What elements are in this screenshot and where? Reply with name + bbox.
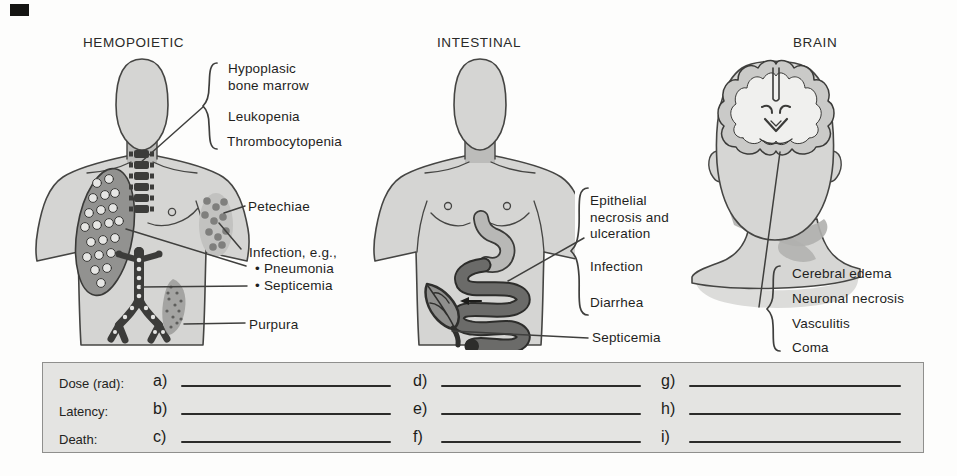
label-septicemia-bullet: • Septicemia (255, 278, 333, 295)
label-hypoplasic-bone-marrow: Hypoplasic bone marrow (228, 61, 309, 94)
row-label-death: Death: (59, 432, 97, 447)
blank-letter-f: f) (413, 428, 423, 446)
blank-letter-g: g) (661, 372, 675, 390)
blank-letter-a: a) (153, 372, 167, 390)
scan-artifact-mark (10, 4, 29, 16)
blank-letter-h: h) (661, 400, 675, 418)
brain-head-illustration (690, 55, 890, 360)
blank-letter-b: b) (153, 400, 167, 418)
blank-line-a (181, 385, 391, 387)
row-label-latency: Latency: (59, 404, 108, 419)
blank-line-d (441, 385, 641, 387)
head-shape (454, 59, 506, 150)
panel-title-intestinal: INTESTINAL (437, 35, 521, 50)
panel-title-brain: BRAIN (793, 35, 837, 50)
label-epithelial-necrosis: Epithelial necrosis and ulceration (590, 193, 669, 243)
blank-line-g (689, 385, 901, 387)
label-intestinal-infection: Infection (590, 259, 643, 276)
label-purpura: Purpura (249, 317, 298, 334)
blank-letter-e: e) (413, 400, 427, 418)
label-coma: Coma (792, 340, 829, 357)
dose-latency-death-worksheet: Dose (rad): a) d) g) Latency: b) e) h) D… (42, 362, 924, 453)
row-label-dose: Dose (rad): (59, 376, 124, 391)
blank-line-h (689, 413, 901, 415)
label-infection-eg: Infection, e.g., (249, 245, 337, 262)
blank-letter-d: d) (413, 372, 427, 390)
blank-line-e (441, 413, 641, 415)
head-shape (116, 59, 168, 150)
label-vasculitis: Vasculitis (792, 316, 850, 333)
intestinal-body-illustration (360, 55, 575, 350)
blank-line-f (441, 441, 641, 443)
label-pneumonia-bullet: • Pneumonia (255, 261, 334, 278)
label-thrombocytopenia: Thrombocytopenia (227, 134, 342, 151)
label-intestinal-septicemia: Septicemia (592, 330, 661, 347)
label-leukopenia: Leukopenia (228, 109, 300, 126)
label-petechiae: Petechiae (248, 199, 310, 216)
blank-line-c (181, 441, 391, 443)
blank-letter-i: i) (661, 428, 670, 446)
label-diarrhea: Diarrhea (590, 295, 643, 312)
hemopoietic-body-illustration (35, 55, 250, 350)
label-cerebral-edema: Cerebral edema (792, 266, 892, 283)
blank-line-i (689, 441, 901, 443)
label-neuronal-necrosis: Neuronal necrosis (792, 291, 904, 308)
radiation-syndromes-figure: HEMOPOIETIC INTESTINAL BRAIN (0, 0, 957, 476)
blank-line-b (181, 413, 391, 415)
panel-title-hemopoietic: HEMOPOIETIC (83, 35, 184, 50)
blank-letter-c: c) (153, 428, 166, 446)
